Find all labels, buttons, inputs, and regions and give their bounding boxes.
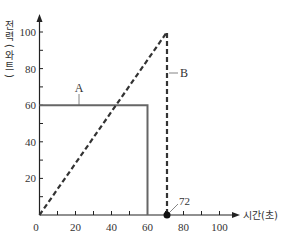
y-tick-labels: 20 40 60 80 100 — [20, 26, 37, 184]
x-axis-title: 시간(초) — [243, 210, 278, 221]
x-tick-label: 100 — [211, 221, 228, 233]
x-tick-label: 80 — [178, 221, 190, 233]
x-tick-label: 60 — [142, 221, 154, 233]
x-tick-label: 20 — [70, 221, 82, 233]
marker-72-leader — [169, 204, 178, 213]
y-tick-label: 80 — [25, 63, 37, 75]
x-tick-label: 0 — [33, 221, 39, 233]
y-tick-label: 100 — [20, 26, 37, 38]
x-tick-label: 40 — [106, 221, 118, 233]
x-tick-labels: 0 20 40 60 80 100 — [33, 221, 228, 233]
y-axis-arrow-icon — [37, 14, 43, 22]
y-tick-label: 60 — [25, 99, 37, 111]
axes — [37, 14, 241, 218]
series-b-label: B — [180, 66, 188, 80]
power-time-chart: 20 40 60 80 100 0 20 40 60 80 100 시간(초) … — [0, 0, 286, 242]
y-tick-label: 40 — [25, 136, 37, 148]
marker-72-label: 72 — [179, 195, 190, 207]
x-axis-arrow-icon — [232, 212, 240, 218]
series-a-line — [40, 105, 148, 215]
y-tick-label: 20 — [25, 172, 37, 184]
series-a-label: A — [75, 81, 84, 95]
